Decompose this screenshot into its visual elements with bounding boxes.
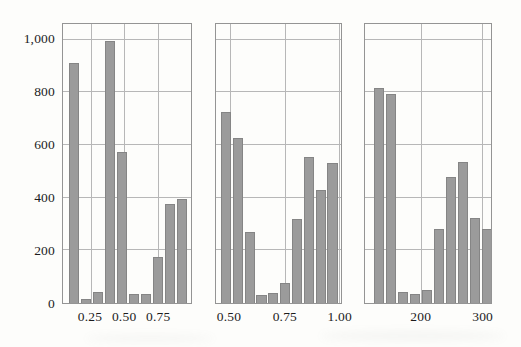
y-tick-label: 1,000 — [24, 31, 55, 47]
histogram-bar — [398, 292, 408, 303]
v-gridline — [91, 24, 92, 303]
histogram-bar — [256, 295, 266, 303]
histogram-panel-right — [364, 23, 492, 304]
histogram-bar — [117, 152, 127, 303]
h-gridline — [63, 144, 191, 145]
histogram-bar — [434, 229, 444, 303]
histogram-bar — [280, 283, 290, 303]
histogram-bar — [165, 204, 175, 303]
histogram-bar — [129, 294, 139, 303]
x-tick-label: 0.75 — [273, 309, 297, 325]
y-axis: 02004006008001,000 — [0, 0, 56, 347]
scan-smudge-right — [320, 331, 505, 341]
histogram-bar — [177, 199, 187, 303]
histogram-bar — [292, 219, 302, 303]
histogram-bar — [233, 138, 243, 303]
histogram-bar — [446, 177, 456, 303]
histogram-bar — [81, 299, 91, 303]
histogram-panel-middle — [215, 23, 342, 304]
histogram-bar — [105, 41, 115, 303]
h-gridline — [63, 39, 191, 40]
h-gridline — [63, 91, 191, 92]
histogram-bar — [153, 257, 163, 303]
histogram-bar — [470, 218, 480, 303]
histogram-bar — [316, 190, 326, 303]
y-tick-label: 800 — [34, 84, 55, 100]
v-gridline — [339, 24, 340, 303]
histogram-bar — [141, 294, 151, 303]
h-gridline — [216, 39, 341, 40]
y-tick-label: 600 — [34, 137, 55, 153]
y-tick-label: 200 — [34, 243, 55, 259]
y-tick-label: 400 — [34, 190, 55, 206]
histogram-bar — [482, 229, 492, 303]
x-tick-label: 0.50 — [217, 309, 241, 325]
histogram-bar — [458, 162, 468, 303]
histogram-bar — [304, 157, 314, 303]
histogram-bar — [386, 94, 396, 303]
histogram-bar — [410, 294, 420, 303]
x-tick-label: 200 — [410, 309, 431, 325]
x-tick-label: 1.00 — [327, 309, 351, 325]
y-tick-label: 0 — [48, 296, 55, 312]
histogram-panel-left — [62, 23, 192, 304]
trellis-histogram-figure: 02004006008001,000 0.250.500.750.500.751… — [0, 0, 521, 347]
histogram-bar — [268, 293, 278, 303]
x-tick-label: 0.50 — [112, 309, 136, 325]
v-gridline — [285, 24, 286, 303]
x-tick-label: 0.25 — [78, 309, 102, 325]
histogram-bar — [422, 290, 432, 303]
histogram-bar — [93, 292, 103, 303]
h-gridline — [216, 91, 341, 92]
histogram-bar — [69, 63, 79, 303]
histogram-bar — [245, 232, 255, 303]
scan-smudge-left — [85, 335, 215, 342]
histogram-bar — [374, 88, 384, 303]
x-tick-label: 300 — [472, 309, 493, 325]
histogram-bar — [221, 112, 231, 303]
x-tick-label: 0.75 — [146, 309, 170, 325]
h-gridline — [365, 39, 491, 40]
histogram-bar — [327, 163, 337, 303]
v-gridline — [421, 24, 422, 303]
